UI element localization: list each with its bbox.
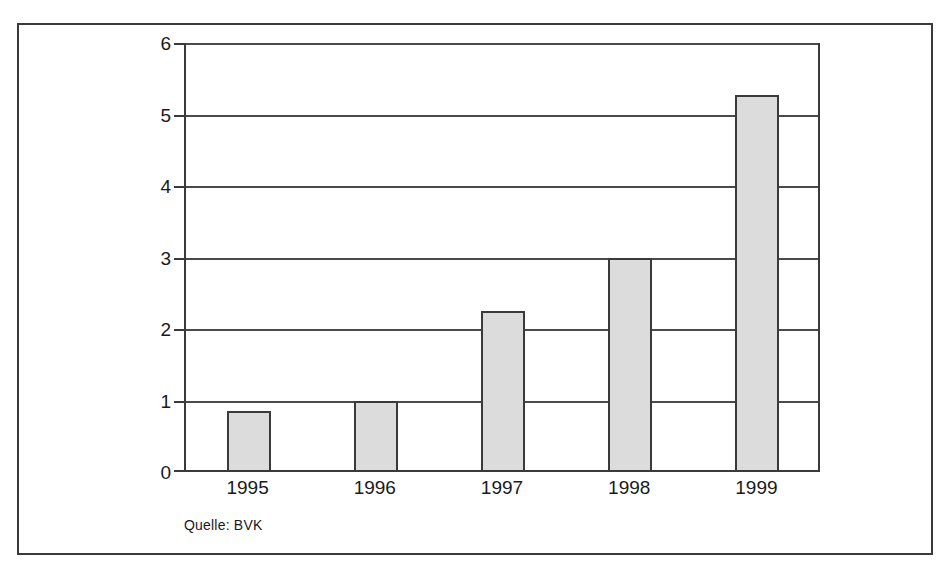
x-tick-label-1998: 1998 (566, 477, 693, 499)
bar-slot-1998 (566, 43, 693, 472)
y-tick-mark-6 (174, 43, 186, 45)
y-tick-label-0: 0 (160, 463, 171, 482)
bar-slot-1999 (693, 43, 820, 472)
y-tick-mark-4 (174, 186, 186, 188)
bar-slot-1997 (440, 43, 567, 472)
y-tick-mark-1 (174, 401, 186, 403)
y-tick-mark-3 (174, 258, 186, 260)
bar-1996 (354, 401, 398, 473)
y-tick-mark-5 (174, 115, 186, 117)
y-tick-label-1: 1 (160, 391, 171, 410)
bar-slot-1995 (186, 43, 313, 472)
y-tick-mark-0 (174, 470, 186, 472)
bar-1995 (227, 411, 271, 472)
y-tick-label-3: 3 (160, 248, 171, 267)
bar-1998 (608, 258, 652, 473)
y-axis-tick-labels: 6 5 4 3 2 1 0 (149, 43, 171, 472)
x-tick-label-1996: 1996 (311, 477, 438, 499)
plot-area (184, 43, 820, 472)
chart-figure-frame: 6 5 4 3 2 1 0 (17, 23, 933, 555)
bar-1997 (481, 311, 525, 472)
y-tick-label-5: 5 (160, 105, 171, 124)
y-tick-label-2: 2 (160, 320, 171, 339)
x-axis-tick-labels: 1995 1996 1997 1998 1999 (184, 477, 820, 499)
x-tick-label-1999: 1999 (693, 477, 820, 499)
x-tick-label-1995: 1995 (184, 477, 311, 499)
x-tick-label-1997: 1997 (438, 477, 565, 499)
bar-slot-1996 (313, 43, 440, 472)
y-tick-mark-2 (174, 329, 186, 331)
bar-series (186, 43, 820, 472)
source-note: Quelle: BVK (184, 517, 262, 533)
y-tick-label-4: 4 (160, 177, 171, 196)
y-tick-label-6: 6 (160, 34, 171, 53)
bar-1999 (735, 95, 779, 472)
